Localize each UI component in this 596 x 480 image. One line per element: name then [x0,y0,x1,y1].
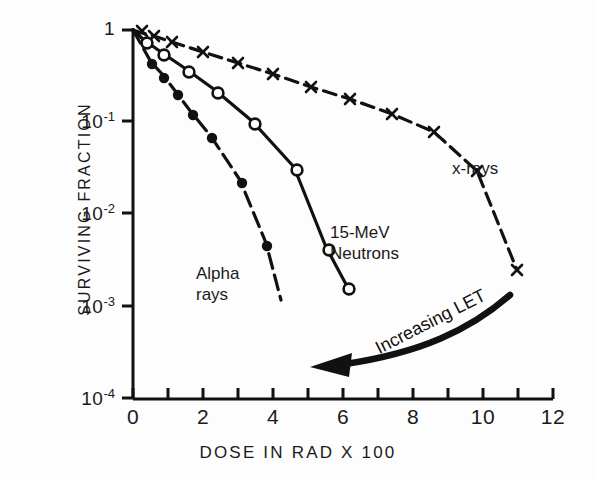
y-tick-label-1e-3-exp: -3 [103,294,115,309]
y-axis-ticks [122,30,133,398]
x-tick-label-8: 8 [393,405,433,429]
x-tick-label-2: 2 [183,405,223,429]
axis-lines [133,28,553,399]
series-neutrons-line [133,30,348,288]
x-axis-ticks [133,388,553,399]
x-tick-label-6: 6 [323,405,363,429]
y-tick-label-1: 1 [60,18,115,40]
x-axis-title: DOSE IN RAD X 100 [0,443,596,463]
series-neutrons [133,30,354,294]
y-tick-label-1e-4: 10-4 [46,386,115,410]
y-tick-label-1e-2-exp: -2 [103,201,115,216]
x-tick-label-4: 4 [253,405,293,429]
chart-figure: 1 10-1 10-2 10-3 10-4 0 2 4 6 8 10 12 DO… [0,0,596,480]
y-axis-title: SURVIVING FRACTION [76,44,94,374]
x-tick-label-10: 10 [463,405,503,429]
series-label-neutrons: 15-MeV Neutrons [330,222,399,264]
y-tick-label-1e-4-base: 10 [81,388,103,409]
y-tick-label-1e-4-exp: -4 [103,386,115,401]
series-label-xrays: x-rays [452,158,498,179]
series-neutrons-markers [142,38,355,295]
series-label-alpha: Alpha rays [196,263,239,305]
x-tick-label-0: 0 [113,405,153,429]
series-xrays [133,26,522,275]
x-tick-label-12: 12 [533,405,573,429]
y-tick-label-1e-1-exp: -1 [103,109,115,124]
let-arrow-head [310,353,352,377]
